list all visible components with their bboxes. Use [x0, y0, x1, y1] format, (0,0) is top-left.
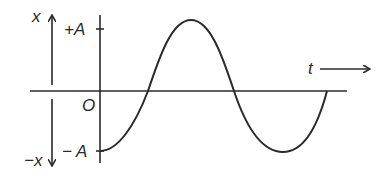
plus-amplitude-label: +A	[64, 20, 85, 39]
origin-label: O	[82, 96, 95, 115]
x-negative-label: −x	[24, 151, 43, 170]
shm-diagram: x +A O − A −x t	[0, 0, 388, 177]
time-label: t	[308, 59, 314, 78]
displacement-curve	[100, 20, 327, 152]
x-positive-label: x	[31, 7, 41, 26]
minus-amplitude-label: − A	[62, 142, 87, 161]
